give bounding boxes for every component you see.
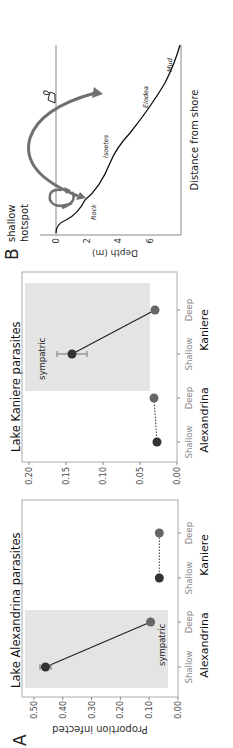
series-line-alexandrina	[154, 398, 157, 442]
y-tick-label: 0.10	[99, 467, 108, 485]
y-tick-label: 0.50	[30, 701, 39, 719]
x-tick-labels: Shallow Deep Shallow Deep	[184, 299, 194, 459]
hotspot-label-line1: shallow	[6, 204, 17, 242]
data-point-shallow	[153, 438, 162, 447]
x-tick-label: Deep	[184, 522, 194, 544]
x-tick-label: Deep	[184, 387, 194, 409]
data-point-shallow	[41, 663, 50, 672]
dispersal-arrow-icon	[29, 93, 95, 196]
sympatric-label: sympatric	[37, 337, 47, 380]
data-point-deep	[151, 306, 160, 315]
x-axis-label: Distance from shore	[189, 89, 200, 190]
lake-bottom-profile	[56, 45, 180, 233]
y-ticks: 0 2 4 6	[51, 238, 155, 243]
zone-label: Mud	[166, 57, 174, 72]
y-tick-label: 4	[113, 238, 123, 243]
zone-labels: Rock Isoetes Elodea Mud	[90, 57, 174, 220]
y-tick-label: 0.20	[116, 701, 125, 719]
y-tick-label: 0.30	[88, 701, 97, 719]
group-label: Kaniere	[198, 309, 211, 351]
x-tick-label: Shallow	[184, 338, 194, 371]
zone-label: Elodea	[142, 86, 150, 108]
data-point-deep	[150, 394, 159, 403]
x-tick-labels: Shallow Deep Shallow Deep	[184, 522, 194, 684]
panel-label-a: A	[10, 734, 30, 746]
group-label: Alexandrina	[198, 387, 211, 453]
data-point-shallow	[155, 574, 164, 583]
y-axis-label: Proportion infected	[52, 724, 147, 735]
figure: A Lake Alexandrina parasites Proportion …	[0, 0, 233, 748]
x-tick-label: Deep	[184, 611, 194, 633]
y-tick-label: 0.15	[62, 467, 71, 485]
panel-kaniere-title: Lake Kaniere parasites	[9, 322, 23, 452]
panel-a-title: Lake Alexandrina parasites	[9, 532, 23, 688]
data-point-shallow	[68, 350, 77, 359]
x-tick-label: Shallow	[184, 651, 194, 684]
y-tick-label: 0.05	[136, 467, 145, 485]
panel-label-b: B	[2, 248, 22, 260]
group-label: Alexandrina	[198, 612, 211, 678]
y-tick-label: 0.20	[25, 467, 34, 485]
y-tick-label: 0.10	[145, 701, 154, 719]
y-tick-label: 0.00	[174, 701, 183, 719]
group-labels: Alexandrina Kaniere	[198, 309, 211, 453]
hotspot-label-line2: hotspot	[19, 204, 30, 242]
y-tick-label: 2	[82, 238, 92, 243]
data-point-deep	[155, 529, 164, 538]
y-tick-label: 0.40	[59, 701, 68, 719]
y-tick-label: 0.00	[173, 467, 182, 485]
panel-b: B shallow hotspot Depth (m) 0 2 4 6 Rock…	[2, 45, 200, 260]
panel-a: A Lake Alexandrina parasites Proportion …	[9, 500, 211, 746]
y-tick-label: 0	[51, 238, 61, 243]
y-ticks: 0.20 0.15 0.10 0.05 0.00	[25, 462, 182, 485]
x-tick-label: Shallow	[184, 562, 194, 595]
zone-label: Isoetes	[102, 134, 110, 158]
panel-kaniere: Lake Kaniere parasites 0.20 0.15 0.10 0.…	[9, 272, 211, 485]
data-point-deep	[146, 618, 155, 627]
x-tick-label: Shallow	[184, 426, 194, 459]
y-axis-label: Depth (m)	[92, 248, 138, 258]
y-ticks: 0.50 0.40 0.30 0.20 0.10 0.00	[30, 697, 183, 719]
y-tick-label: 6	[145, 238, 155, 243]
arrowhead-icon	[92, 87, 103, 98]
zone-label: Rock	[90, 204, 98, 220]
x-tick-label: Deep	[184, 299, 194, 321]
group-label: Kaniere	[198, 534, 211, 576]
group-labels: Alexandrina Kaniere	[198, 534, 211, 678]
bird-icon	[44, 91, 55, 103]
sympatric-label: sympatric	[157, 623, 167, 666]
